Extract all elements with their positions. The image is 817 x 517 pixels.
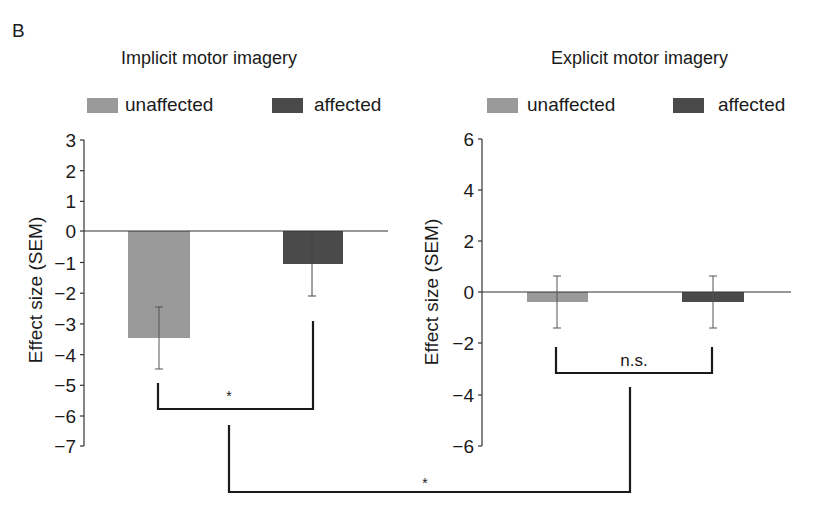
- left-ytick-label: −1: [54, 253, 76, 274]
- right-ytick-label: 0: [463, 282, 474, 303]
- cross-panel-comparison: *: [229, 387, 630, 492]
- left-ytick-label: −7: [54, 436, 76, 457]
- left-ytick-label: 2: [65, 161, 76, 182]
- left-ytick-label: −5: [54, 375, 76, 396]
- left-ytick-label: −4: [54, 345, 76, 366]
- right-y-tick-labels: 6 4 2 0 −2 −4 −6: [452, 129, 474, 457]
- left-plot: 3 2 1 0 −1 −2 −3 −4 −5 −6 −7 Effect size…: [25, 130, 388, 457]
- right-ytick-label: −2: [452, 333, 474, 354]
- left-ytick-label: 0: [65, 221, 76, 242]
- left-y-tick-labels: 3 2 1 0 −1 −2 −3 −4 −5 −6 −7: [54, 130, 76, 457]
- right-ytick-label: −6: [452, 436, 474, 457]
- left-ytick-label: 1: [65, 191, 76, 212]
- right-significance-label: n.s.: [620, 351, 647, 370]
- left-significance-star: *: [226, 388, 232, 404]
- left-ytick-label: −2: [54, 283, 76, 304]
- left-ytick-label: 3: [65, 130, 76, 151]
- left-y-axis-label: Effect size (SEM): [25, 217, 46, 363]
- left-ytick-label: −6: [54, 406, 76, 427]
- right-plot: 6 4 2 0 −2 −4 −6 Effect size (SEM) n.s.: [421, 129, 791, 457]
- right-ytick-label: 2: [463, 231, 474, 252]
- figure-canvas: 3 2 1 0 −1 −2 −3 −4 −5 −6 −7 Effect size…: [0, 0, 817, 517]
- cross-panel-significance-bracket: [229, 387, 630, 492]
- right-ytick-label: 6: [463, 129, 474, 150]
- left-bar-affected: [283, 231, 343, 264]
- cross-panel-significance-star: *: [422, 475, 428, 491]
- right-y-axis-label: Effect size (SEM): [421, 219, 442, 365]
- left-ytick-label: −3: [54, 314, 76, 335]
- right-ytick-label: −4: [452, 385, 474, 406]
- right-ytick-label: 4: [463, 180, 474, 201]
